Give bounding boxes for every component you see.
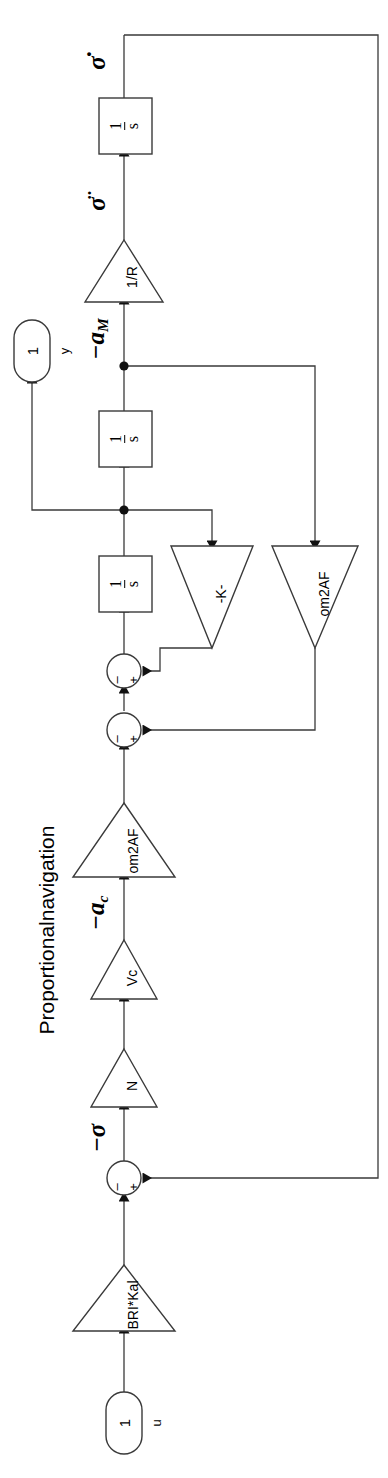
wire-gaink-to-sum1 <box>144 648 212 671</box>
sum-1-shape <box>107 654 141 688</box>
diagram-vector-layer <box>0 0 388 1478</box>
gain-k-shape <box>171 546 253 648</box>
gain-vc-shape <box>91 940 157 999</box>
gain-invr-shape <box>85 240 163 302</box>
block-diagram-canvas: Proportionalnavigation 1 y 1 u 1 s 1 s 1… <box>0 0 388 1478</box>
branch-dot-am <box>119 361 128 370</box>
gain-om2af-fwd-shape <box>73 803 175 877</box>
integrator-2-shape <box>99 411 152 467</box>
branch-dot-sigma <box>119 505 128 514</box>
integrator-3-shape <box>99 556 152 612</box>
sum-2-shape <box>107 713 141 747</box>
wire-branch-sigma-to-gaink <box>124 510 212 542</box>
output-port-shape <box>14 320 50 382</box>
input-port-shape <box>106 1392 142 1454</box>
sum-3-shape <box>107 1161 141 1195</box>
wire-om2af-fb-to-sum2 <box>144 648 315 730</box>
wire-outer-feedback <box>124 35 378 1178</box>
gain-om2af-fb-shape <box>272 546 358 648</box>
integrator-1-shape <box>99 98 152 154</box>
gain-n-shape <box>91 1049 157 1107</box>
gain-brikal-shape <box>73 1265 175 1331</box>
